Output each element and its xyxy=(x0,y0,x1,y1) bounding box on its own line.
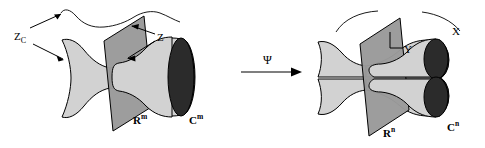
label-cn: Cn xyxy=(447,120,459,133)
psi-arrow-head xyxy=(291,68,302,77)
right-back-lower xyxy=(318,79,366,115)
right-dark-cap-lower xyxy=(424,77,448,117)
label-rm: Rm xyxy=(133,113,147,126)
left-dark-cap-front xyxy=(168,38,194,116)
figure-canvas: ZC Z Rm Cm Ψ Y X Rn Cn xyxy=(0,0,485,148)
left-wavy-curve xyxy=(61,10,180,27)
label-z: Z xyxy=(157,32,164,43)
map-arrow-group xyxy=(241,68,302,77)
left-zc-arrows xyxy=(30,14,63,59)
label-y: Y xyxy=(404,44,412,55)
label-psi: Ψ xyxy=(263,54,272,66)
left-panel-graphics xyxy=(30,10,195,131)
diagram-svg xyxy=(0,0,485,148)
label-rn: Rn xyxy=(383,126,395,139)
right-back-upper xyxy=(318,41,366,77)
right-panel-graphics xyxy=(318,11,460,136)
label-x: X xyxy=(452,26,460,37)
label-zc: ZC xyxy=(14,31,26,45)
label-cm: Cm xyxy=(189,113,203,126)
right-arc-left xyxy=(336,11,378,32)
left-hyperboloid-back xyxy=(62,39,110,117)
right-dark-cap-upper xyxy=(424,39,448,79)
